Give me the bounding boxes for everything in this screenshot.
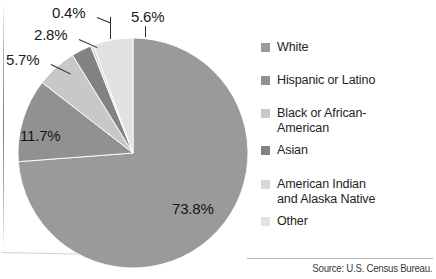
left-border-rule — [3, 2, 4, 252]
legend-swatch-hispanic — [261, 76, 270, 85]
legend-label-hispanic: Hispanic or Latino — [277, 73, 375, 88]
legend-swatch-american-indian-and-alaska-native — [261, 180, 270, 189]
legend-item-white[interactable]: White — [261, 40, 431, 55]
pie-chart-figure: 73.8% 11.7% 5.7% 2.8% 0.4% 5.6% White Hi… — [0, 0, 436, 279]
legend-label-line-1: Black or African- — [277, 106, 366, 120]
slice-label-other: 5.6% — [131, 8, 164, 25]
legend-label-american-indian-and-alaska-native: American Indian and Alaska Native — [277, 177, 375, 207]
legend-label-other: Other — [277, 214, 308, 229]
slice-label-asian: 2.8% — [34, 26, 67, 43]
legend-swatch-asian — [261, 146, 270, 155]
pie-graphic — [17, 37, 249, 269]
legend-swatch-other — [261, 217, 270, 226]
pie-slices — [18, 38, 248, 268]
slice-label-white: 73.8% — [172, 200, 214, 217]
slice-label-american-indian: 0.4% — [52, 4, 85, 21]
legend-item-other[interactable]: Other — [261, 214, 431, 229]
legend-label-white: White — [277, 40, 308, 55]
leader-line-american-indian-2 — [110, 17, 111, 39]
legend-item-asian[interactable]: Asian — [261, 143, 431, 158]
legend-swatch-black-or-african-american — [261, 109, 270, 118]
legend-swatch-white — [261, 43, 270, 52]
legend-item-american-indian-and-alaska-native[interactable]: American Indian and Alaska Native — [261, 177, 431, 207]
source-attribution: Source: U.S. Census Bureau. — [312, 262, 432, 274]
legend-label-asian: Asian — [277, 143, 308, 158]
slice-label-black: 5.7% — [6, 51, 39, 68]
legend: White Hispanic or Latino Black or Africa… — [261, 40, 431, 238]
legend-label-line-2: American — [277, 121, 329, 135]
leader-line-other — [145, 26, 146, 37]
legend-label-black-or-african-american: Black or African- American — [277, 106, 366, 136]
source-divider — [247, 258, 433, 259]
legend-label-line-1: American Indian — [277, 177, 366, 191]
legend-label-line-2: and Alaska Native — [277, 192, 375, 206]
pie-svg — [17, 37, 249, 269]
slice-label-hispanic: 11.7% — [20, 127, 60, 144]
legend-item-black-or-african-american[interactable]: Black or African- American — [261, 106, 431, 136]
leader-line-american-indian-1 — [97, 17, 110, 23]
legend-item-hispanic[interactable]: Hispanic or Latino — [261, 73, 431, 88]
